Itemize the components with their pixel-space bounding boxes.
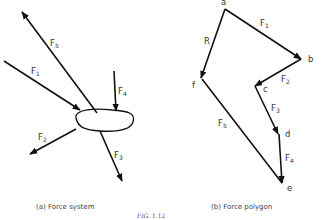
- point-e: e: [287, 183, 292, 193]
- label-edge-resultant: R: [204, 36, 210, 46]
- label-edge-f3: F3: [271, 103, 280, 114]
- force-arrow-f4: [114, 71, 116, 111]
- point-c: c: [263, 84, 268, 94]
- label-f5: F5: [50, 38, 59, 49]
- label-f1: F1: [31, 66, 40, 77]
- force-arrow-f1: [4, 61, 80, 110]
- point-a: a: [221, 0, 226, 7]
- point-d: d: [285, 129, 290, 139]
- label-f2: F2: [38, 132, 47, 143]
- polygon-edge-f1: [225, 9, 301, 59]
- caption-panel-a: (a) Force system: [36, 203, 95, 211]
- caption-panel-b: (b) Force polygon: [211, 203, 272, 211]
- polygon-edge-f4: [279, 134, 282, 183]
- rigid-body-blob: [76, 109, 134, 131]
- force-arrow-f2: [30, 129, 76, 154]
- panel-b-labels: a b c d e f F1 F2 F3 F4 F5 R (b) Force p…: [192, 0, 313, 211]
- point-f: f: [192, 80, 196, 90]
- polygon-edge-f5: [202, 79, 282, 183]
- label-edge-f5: F5: [218, 118, 227, 129]
- figure-number: FIG. 1.12: [137, 212, 165, 219]
- polygon-edge-f2: [255, 59, 301, 86]
- point-b: b: [308, 54, 313, 64]
- force-arrow-f5: [22, 12, 97, 113]
- label-edge-f4: F4: [285, 153, 294, 164]
- label-f3: F3: [114, 150, 123, 161]
- label-f4: F4: [118, 86, 127, 97]
- label-edge-f2: F2: [281, 74, 290, 85]
- force-diagram-figure: F5 F1 F4 F2 F3 (a) Force system a b c d …: [0, 0, 321, 220]
- label-edge-f1: F1: [260, 18, 269, 29]
